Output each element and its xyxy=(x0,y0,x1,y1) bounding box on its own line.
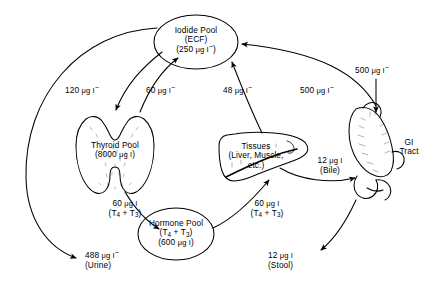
figure-canvas: Iodide Pool (ECF) (250 μg I−) Thyroid Po… xyxy=(0,0,430,286)
hormone-pool-label: Hormone Pool (T4 + T3) (600 μg I) xyxy=(131,219,221,247)
flux-thyroid-to-hormone-label: 60 μg I (T4 + T3) xyxy=(93,199,157,218)
flux-urine-loss-label: 488 μg I− (Urine) xyxy=(85,251,119,270)
arrow-iodide-to-thyroid xyxy=(116,52,162,110)
thyroid-pool-line-2: (8000 μg I) xyxy=(72,150,158,159)
flux-bile-label: 12 μg I (Bile) xyxy=(302,156,358,175)
gi-tract-line-2: Tract xyxy=(392,147,426,156)
flux-gi-to-iodide-label: 500 μg I− xyxy=(300,86,334,96)
flux-dietary-intake-label: 500 μg I− xyxy=(355,66,389,76)
thyroid-pool-label: Thyroid Pool (8000 μg I) xyxy=(72,141,158,160)
hormone-pool-line-3: (600 μg I) xyxy=(131,238,221,247)
iodide-pool-line-2: (ECF) xyxy=(151,35,241,44)
iodide-pool-line-3: (250 μg I−) xyxy=(151,45,241,54)
flux-iodide-to-thyroid-label: 120 μg I− xyxy=(65,86,99,96)
flux-stool-loss-label: 12 μg I (Stool) xyxy=(268,251,293,270)
arrow-gi-to-stool xyxy=(321,200,356,250)
tissues-label: Tissues (Liver, Muscle, etc.) xyxy=(213,142,299,170)
gi-tract-label: GI Tract xyxy=(392,138,426,157)
tissues-line-3: etc.) xyxy=(213,161,299,170)
flux-hormone-to-tissues-label: 60 μg I (T4 + T3) xyxy=(235,199,299,218)
flux-tissues-to-iodide-label: 48 μg I− xyxy=(223,86,252,96)
arrow-tissues-to-iodide xyxy=(232,62,262,133)
flux-thyroid-to-iodide-label: 60 μg I− xyxy=(146,86,175,96)
iodide-pool-label: Iodide Pool (ECF) (250 μg I−) xyxy=(151,26,241,54)
